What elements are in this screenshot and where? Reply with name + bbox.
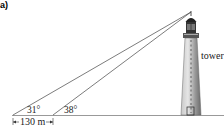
lighthouse-diagram: 31° 38° tower 130 m bbox=[0, 0, 224, 125]
distance-dimension: 130 m bbox=[13, 116, 53, 125]
distance-label: 130 m bbox=[20, 116, 46, 125]
tower-label: tower bbox=[201, 50, 224, 61]
sight-line-far bbox=[13, 12, 191, 115]
angle-label-far: 31° bbox=[27, 105, 41, 115]
sight-line-near bbox=[53, 12, 191, 115]
angle-label-near: 38° bbox=[64, 105, 78, 115]
lighthouse-icon bbox=[181, 11, 201, 115]
